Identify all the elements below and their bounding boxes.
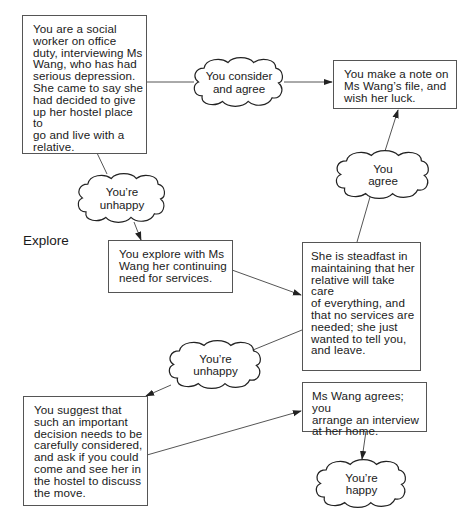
explore-label: Explore (23, 233, 69, 248)
note-outcome-box: You make a note on Ms Wang’s file, and w… (333, 60, 457, 109)
cloud-you-are-happy: You’re happy (315, 459, 408, 508)
cloud-unhappy-second: You’re unhappy (168, 340, 263, 389)
edge-start-to-unhappy1 (97, 153, 107, 174)
edge-suggest-to-agrees (147, 411, 301, 455)
cloud-unhappy-first: You’re unhappy (77, 173, 167, 223)
cloud-agree-text: You agree (335, 162, 431, 187)
cloud-consider-and-agree: You consider and agree (193, 57, 285, 107)
cloud-consider-text: You consider and agree (193, 70, 285, 95)
explore-box: You explore with Ms Wang her continuing … (108, 240, 233, 293)
cloud-unhappy2-text: You’re unhappy (168, 352, 263, 377)
cloud-unhappy1-text: You’re unhappy (77, 186, 167, 211)
cloud-happy-text: You’re happy (315, 471, 408, 496)
edge-explore-to-steadfast (232, 270, 301, 295)
flow-diagram: You are a social worker on office duty, … (0, 0, 466, 522)
edge-agree-to-note (385, 110, 398, 151)
cloud-you-agree: You agree (335, 150, 431, 199)
start-scenario-box: You are a social worker on office duty, … (22, 15, 147, 154)
steadfast-box: She is steadfast in maintaining that her… (302, 242, 421, 371)
suggest-box: You suggest that such an important decis… (23, 396, 148, 506)
edge-steadfast-to-agree (357, 197, 370, 242)
agrees-outcome-box: Ms Wang agrees; you arrange an interview… (302, 382, 427, 432)
edge-unhappy1-to-explore (134, 222, 141, 240)
